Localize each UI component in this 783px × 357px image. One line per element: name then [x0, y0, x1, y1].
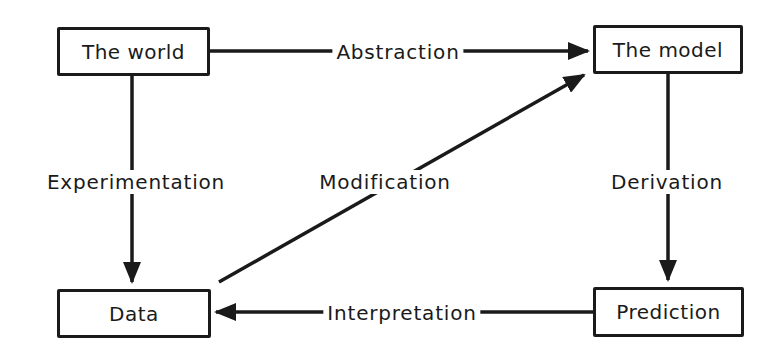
edge-label-experimentation: Experimentation: [43, 170, 229, 194]
node-data: Data: [57, 289, 211, 338]
node-prediction: Prediction: [593, 287, 744, 337]
edge-label-derivation: Derivation: [607, 170, 727, 194]
edge-label-interpretation: Interpretation: [323, 301, 480, 325]
edge-label-abstraction: Abstraction: [332, 40, 463, 64]
node-the-model: The model: [593, 25, 743, 74]
edge-label-modification: Modification: [315, 170, 455, 194]
node-the-world: The world: [57, 27, 210, 76]
